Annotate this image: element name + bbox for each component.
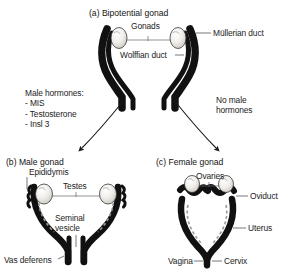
- panel-a-title: (a) Bipotential gonad: [89, 8, 168, 18]
- panel-c-artwork: [180, 176, 248, 267]
- mullerian-remnant-right: [98, 192, 113, 232]
- epididymis-right-coil: [122, 186, 125, 207]
- label-vagina: Vagina: [168, 256, 193, 266]
- panel-b-title: (b) Male gonad: [6, 157, 64, 167]
- label-seminal-vesicle: Seminal vesicle: [55, 213, 85, 234]
- sexual-differentiation-figure: (a) Bipotential gonad Gonads Müllerian d…: [0, 0, 302, 271]
- arrow-to-male-shape: [80, 100, 124, 150]
- vas-deferens-leader: [58, 256, 64, 259]
- label-no-male-hormones: No male hormones: [216, 95, 252, 116]
- uterus-right-horn-shape: [207, 199, 233, 260]
- label-oviduct: Oviduct: [250, 191, 278, 201]
- wolffian-remnant-right: [213, 205, 227, 243]
- label-mullerian-duct: Müllerian duct: [213, 28, 264, 38]
- gonad-left-detail: [114, 32, 120, 34]
- epididymis-left-coil: [28, 186, 31, 207]
- label-ovaries: Ovaries: [196, 171, 224, 181]
- label-gonads: Gonads: [131, 21, 160, 31]
- label-uterus: Uterus: [248, 223, 272, 233]
- gonad-right-detail: [173, 32, 179, 34]
- vas-deferens-right-shape: [84, 187, 118, 262]
- oviduct-right-coil: [206, 187, 234, 193]
- gonad-left-oval: [111, 28, 127, 49]
- gonad-right-oval: [170, 28, 186, 49]
- label-male-hormones: Male hormones: - MIS - Testosterone - In…: [25, 88, 84, 130]
- duct-inner-right-shape: [164, 33, 188, 108]
- testis-left-detail: [39, 188, 45, 190]
- testis-right-oval: [100, 184, 117, 204]
- label-wolffian-duct: Wolffian duct: [120, 50, 167, 60]
- label-testes: Testes: [63, 181, 87, 191]
- ovary-left-detail: [188, 179, 193, 181]
- label-vas-deferens: Vas deferens: [4, 255, 52, 265]
- wolffian-duct-left-shape: [102, 29, 122, 108]
- label-epididymis: Epididymis: [29, 167, 69, 177]
- testis-left-oval: [36, 184, 53, 204]
- panel-a-artwork: [102, 28, 211, 109]
- oviduct-left-coil: [180, 187, 208, 193]
- mullerian-duct-right-shape: [175, 29, 195, 108]
- wolffian-remnant-left: [187, 205, 201, 243]
- testis-right-detail: [103, 188, 109, 190]
- panel-c-title: (c) Female gonad: [156, 157, 223, 167]
- mullerian-remnant-left: [39, 192, 54, 232]
- label-cervix: Cervix: [224, 256, 247, 266]
- duct-inner-left-shape: [109, 33, 133, 108]
- arrow-to-female-shape: [174, 100, 218, 150]
